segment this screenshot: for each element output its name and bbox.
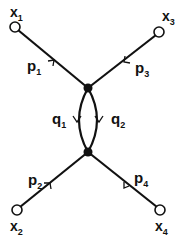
point-x2 bbox=[12, 205, 22, 215]
label-p4: p4 bbox=[134, 169, 148, 189]
label-p3: p3 bbox=[135, 59, 149, 79]
point-x3 bbox=[154, 27, 164, 37]
label-q1: q1 bbox=[52, 110, 66, 130]
point-x1 bbox=[10, 22, 20, 32]
vertex-bottom bbox=[84, 148, 93, 157]
label-p2: p2 bbox=[28, 171, 42, 191]
label-p1: p1 bbox=[27, 57, 41, 77]
label-x4: x4 bbox=[155, 218, 168, 237]
label-x1: x1 bbox=[10, 4, 23, 23]
line-q1 bbox=[79, 88, 88, 152]
label-x3: x3 bbox=[162, 8, 175, 27]
arrow-p1-icon bbox=[48, 60, 54, 66]
vertex-top bbox=[84, 84, 93, 93]
point-x4 bbox=[155, 205, 165, 215]
feynman-diagram: x1 x3 x2 x4 p1 p3 p2 p4 q1 q2 bbox=[0, 0, 183, 245]
line-q2 bbox=[88, 88, 97, 152]
line-p3 bbox=[88, 35, 156, 88]
label-q2: q2 bbox=[111, 110, 125, 130]
label-x2: x2 bbox=[10, 218, 23, 237]
